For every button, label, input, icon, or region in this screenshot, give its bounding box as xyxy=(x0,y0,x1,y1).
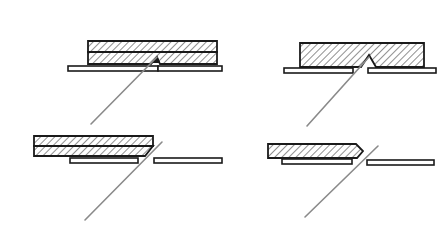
hatched-board xyxy=(300,43,424,67)
strip-right xyxy=(158,66,222,71)
hatched-board-upper xyxy=(34,136,153,146)
panel-top-left xyxy=(68,41,222,124)
diagram-canvas xyxy=(0,0,437,236)
strip-left xyxy=(70,158,138,163)
hatched-board-lower xyxy=(34,146,153,156)
panel-bottom-right xyxy=(268,144,434,217)
strip-left xyxy=(284,68,353,73)
hatched-board-upper xyxy=(88,41,217,52)
panel-bottom-left xyxy=(34,136,222,220)
cross-section-diagram xyxy=(0,0,437,236)
strip-left xyxy=(282,159,352,164)
strip-right xyxy=(367,160,434,165)
strip-right xyxy=(368,68,436,73)
hatched-board xyxy=(268,144,363,158)
panel-top-right xyxy=(284,43,436,126)
strip-right xyxy=(154,158,222,163)
